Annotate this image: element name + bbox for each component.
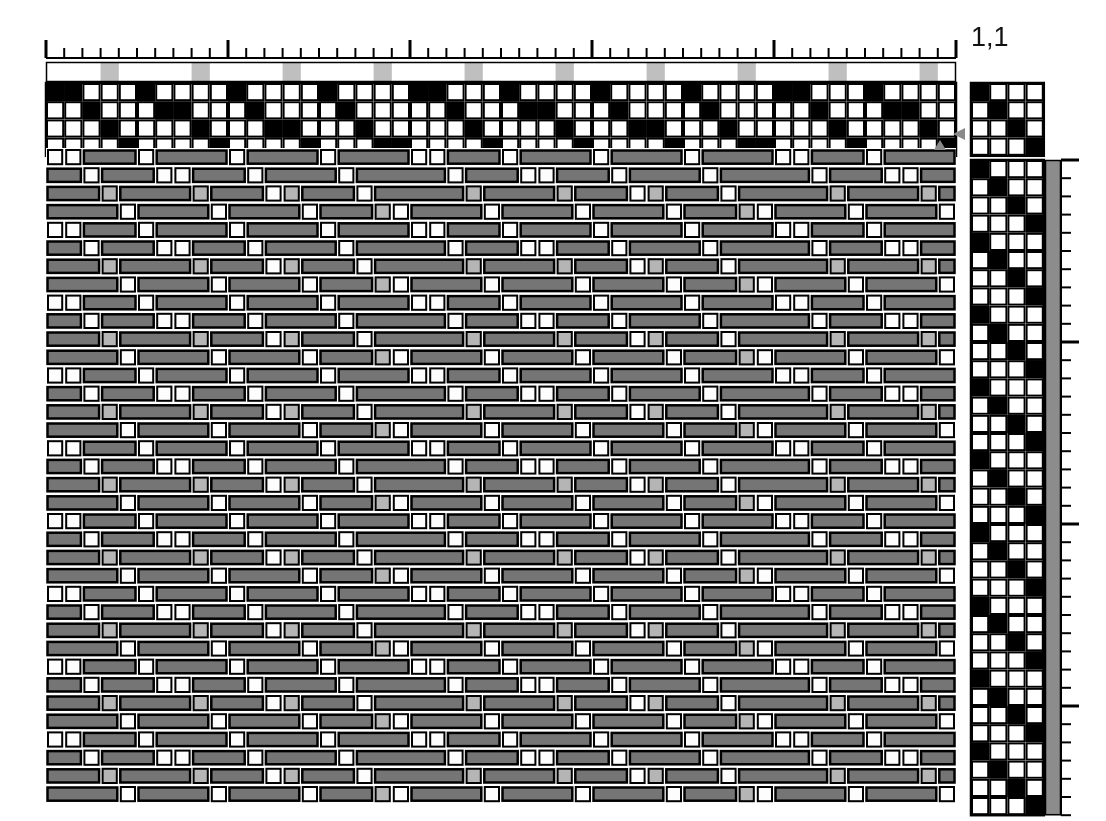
weaving-draft-canvas: [0, 0, 1106, 821]
tieup-repeat-label: 1,1: [971, 24, 1009, 51]
weaving-draft-page: 1,1: [0, 0, 1106, 821]
